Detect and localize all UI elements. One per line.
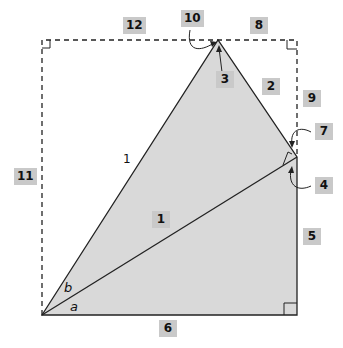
hypotenuse-length-label: 1 bbox=[123, 152, 131, 166]
shaded-quadrilateral bbox=[42, 40, 297, 315]
label-3: 3 bbox=[216, 71, 234, 88]
label-10: 10 bbox=[181, 10, 204, 27]
label-9: 9 bbox=[303, 90, 321, 107]
right-angle-top-right bbox=[287, 40, 297, 49]
label-4: 4 bbox=[315, 177, 333, 194]
label-11: 11 bbox=[14, 168, 37, 185]
angle-b-label: b bbox=[64, 280, 72, 295]
label-2: 2 bbox=[262, 78, 280, 95]
right-angle-top-left bbox=[42, 40, 50, 48]
label-5: 5 bbox=[303, 228, 321, 245]
label-6: 6 bbox=[159, 320, 177, 337]
angle-a-label: a bbox=[70, 299, 78, 314]
geometry-figure bbox=[0, 0, 343, 348]
label-12: 12 bbox=[123, 17, 146, 34]
label-8: 8 bbox=[250, 17, 268, 34]
label-1-box: 1 bbox=[152, 211, 170, 228]
label-7: 7 bbox=[315, 123, 333, 140]
arrow-10 bbox=[189, 30, 214, 49]
